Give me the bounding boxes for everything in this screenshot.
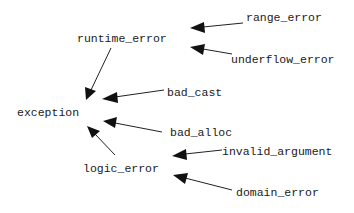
- node-runtime-error: runtime_error: [77, 32, 167, 45]
- node-domain-error: domain_error: [236, 186, 319, 199]
- node-range-error: range_error: [246, 11, 322, 24]
- edge-underflow-error-to-runtime-error: [190, 44, 232, 55]
- arrowhead-icon: [102, 92, 118, 103]
- arrowhead-icon: [85, 87, 96, 100]
- edge-runtime-error-to-exception: [85, 48, 111, 100]
- node-bad-cast: bad_cast: [167, 86, 222, 99]
- arrowhead-icon: [190, 22, 205, 33]
- arrowhead-icon: [190, 44, 205, 55]
- edge-domain-error-to-logic-error: [173, 173, 232, 190]
- arrowhead-icon: [103, 117, 117, 128]
- node-underflow-error: underflow_error: [231, 53, 335, 66]
- edge-bad-alloc-to-exception: [103, 117, 162, 132]
- node-bad-alloc: bad_alloc: [170, 126, 232, 139]
- arrowhead-icon: [87, 126, 100, 138]
- exception-hierarchy-diagram: runtime_error range_error underflow_erro…: [0, 0, 354, 213]
- edge-bad-cast-to-exception: [102, 90, 164, 103]
- arrowhead-icon: [172, 149, 187, 160]
- edge-logic-error-to-exception: [87, 126, 115, 155]
- node-exception: exception: [17, 106, 79, 119]
- edge-invalid-argument-to-logic-error: [172, 149, 222, 160]
- arrowhead-icon: [173, 173, 188, 184]
- node-logic-error: logic_error: [83, 162, 159, 175]
- node-invalid-argument: invalid_argument: [222, 145, 332, 158]
- edge-range-error-to-runtime-error: [190, 22, 243, 33]
